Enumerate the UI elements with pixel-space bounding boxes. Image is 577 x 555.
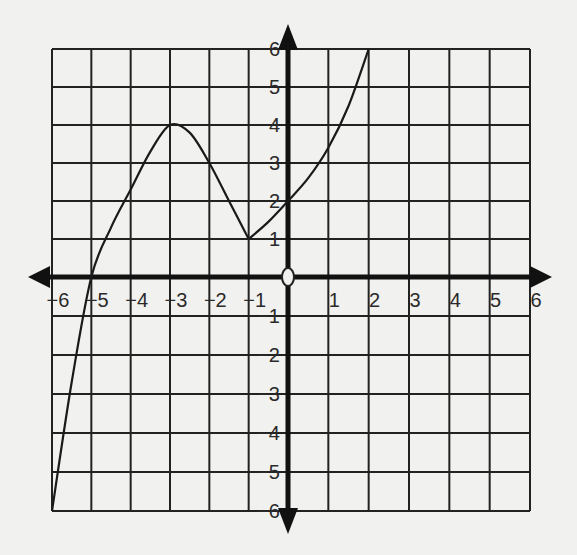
x-axis-left-arrow-icon (28, 266, 50, 288)
y-tick-label: 4 (269, 114, 280, 136)
function-graph: −6−5−4−3−2−1123456 −6−5−4−3−2−1123456 (0, 0, 577, 555)
x-tick-label: −3 (165, 289, 188, 311)
origin-label-zero (282, 268, 294, 286)
x-tick-label: −6 (47, 289, 70, 311)
y-tick-label: 1 (269, 228, 280, 250)
x-tick-label: 3 (409, 289, 420, 311)
y-axis-down-arrow-icon (278, 508, 298, 534)
y-tick-label: −4 (257, 422, 280, 444)
y-tick-label: 6 (269, 38, 280, 60)
x-tick-labels: −6−5−4−3−2−1123456 (47, 268, 542, 311)
x-tick-label: −4 (125, 289, 148, 311)
y-tick-labels: −6−5−4−3−2−1123456 (257, 38, 280, 522)
y-tick-label: −6 (257, 500, 280, 522)
x-tick-label: −5 (86, 289, 109, 311)
y-tick-label: 2 (269, 190, 280, 212)
x-tick-label: 6 (530, 289, 541, 311)
x-axis-right-arrow-icon (530, 266, 552, 288)
y-tick-label: −2 (257, 344, 280, 366)
x-tick-label: 2 (369, 289, 380, 311)
y-tick-label: −3 (257, 383, 280, 405)
y-tick-label: −5 (257, 461, 280, 483)
x-tick-label: 1 (329, 289, 340, 311)
x-tick-label: 5 (490, 289, 501, 311)
y-axis-up-arrow-icon (278, 24, 298, 50)
y-tick-label: −1 (257, 305, 280, 327)
y-tick-label: 5 (269, 76, 280, 98)
y-tick-label: 3 (269, 152, 280, 174)
x-tick-label: −2 (204, 289, 227, 311)
x-tick-label: 4 (450, 289, 461, 311)
